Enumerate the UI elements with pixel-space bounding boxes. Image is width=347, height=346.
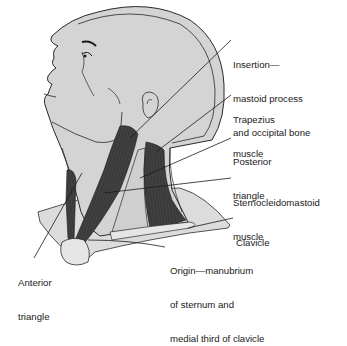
label-anterior-triangle: Anterior triangle (18, 254, 52, 345)
anterior-strap-muscle (66, 170, 76, 241)
label-origin: Origin—manubrium of sternum and medial t… (170, 242, 264, 346)
